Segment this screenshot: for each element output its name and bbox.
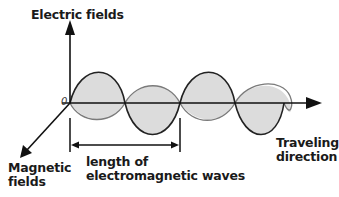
em-wave-diagram: Electric fields 0 Magnetic fields length… bbox=[0, 0, 339, 197]
traveling-direction-label-line2: direction bbox=[276, 150, 337, 164]
electric-fields-label: Electric fields bbox=[31, 8, 124, 22]
electric-axis-arrowhead bbox=[65, 20, 75, 35]
wavelength-label-line2: electromagnetic waves bbox=[86, 169, 245, 183]
magnetic-axis bbox=[27, 103, 70, 150]
origin-label: 0 bbox=[61, 96, 67, 107]
magnetic-fields-label-line1: Magnetic bbox=[8, 161, 71, 175]
traveling-axis-arrowhead bbox=[306, 97, 322, 109]
traveling-direction-label-line1: Traveling bbox=[276, 136, 339, 150]
magnetic-fields-label-line2: fields bbox=[8, 175, 46, 189]
wavelength-label-line1: length of bbox=[86, 155, 148, 169]
